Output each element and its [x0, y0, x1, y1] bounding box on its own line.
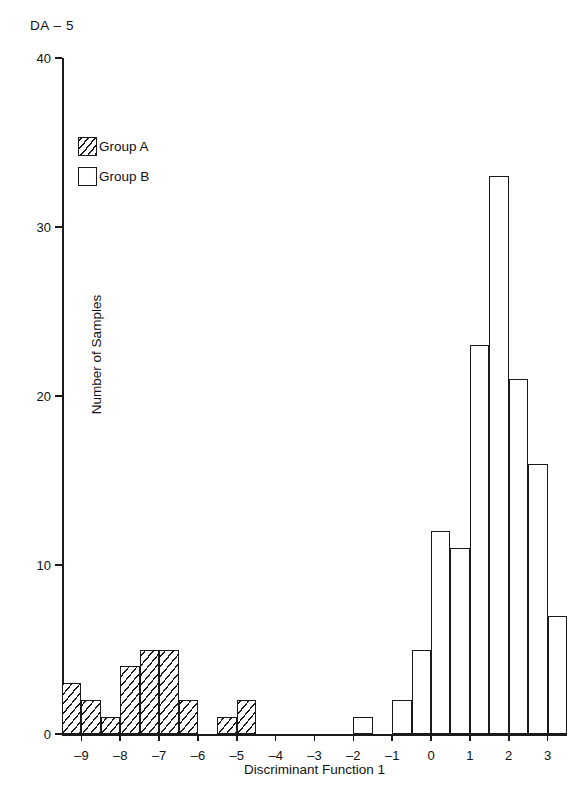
y-tick-label: 40 [37, 51, 51, 66]
x-tick-label: –2 [346, 748, 360, 763]
x-axis-title: Discriminant Function 1 [62, 762, 567, 777]
x-tick-label: –8 [113, 748, 127, 763]
histogram-bar [140, 650, 159, 735]
y-tick-mark [55, 564, 62, 566]
legend-item-group-a: Group A [78, 131, 149, 161]
x-tick-mark [430, 734, 432, 741]
histogram-bar [179, 700, 198, 734]
histogram-bar [120, 666, 139, 734]
histogram-bar [548, 616, 567, 734]
x-tick-label: –7 [152, 748, 166, 763]
histogram-bar [528, 464, 547, 734]
histogram-bar [412, 650, 431, 735]
legend-label-group-a: Group A [99, 139, 149, 154]
x-tick-mark [197, 734, 199, 741]
x-tick-mark [158, 734, 160, 741]
x-tick-label: 3 [544, 748, 551, 763]
legend-label-group-b: Group B [99, 169, 149, 184]
legend-swatch-open-square-icon [78, 167, 97, 186]
y-tick-label: 0 [44, 727, 51, 742]
x-tick-mark [469, 734, 471, 741]
x-tick-label: –5 [230, 748, 244, 763]
histogram-bar [101, 717, 120, 734]
histogram-bar [217, 717, 236, 734]
histogram-bar [509, 379, 528, 734]
x-tick-mark [275, 734, 277, 741]
histogram-bar [450, 548, 469, 734]
legend-swatch-hatched-square-icon [78, 137, 97, 156]
x-tick-label: 0 [427, 748, 434, 763]
legend-item-group-b: Group B [78, 161, 149, 191]
y-tick-mark [55, 226, 62, 228]
x-tick-label: –6 [191, 748, 205, 763]
histogram-bar [62, 683, 81, 734]
y-tick-mark [55, 395, 62, 397]
histogram-bar [81, 700, 100, 734]
y-tick-label: 30 [37, 220, 51, 235]
x-tick-label: 1 [466, 748, 473, 763]
histogram-bar [159, 650, 178, 735]
x-tick-label: –9 [74, 748, 88, 763]
figure-id-label: DA – 5 [30, 18, 74, 33]
x-tick-label: –3 [307, 748, 321, 763]
y-axis-spine [62, 58, 64, 734]
figure-container: DA – 5 010203040 –9–8–7–6–5–4–3–2–10123 … [0, 0, 573, 787]
x-tick-mark [508, 734, 510, 741]
histogram-bar [489, 176, 508, 734]
histogram-bar [431, 531, 450, 734]
histogram-bar [392, 700, 411, 734]
x-tick-mark [81, 734, 83, 741]
y-tick-label: 10 [37, 558, 51, 573]
x-tick-label: 2 [505, 748, 512, 763]
legend: Group A Group B [78, 131, 149, 191]
x-tick-mark [391, 734, 393, 741]
x-tick-mark [236, 734, 238, 741]
x-tick-mark [119, 734, 121, 741]
y-axis-title: Number of Samples [89, 245, 104, 465]
histogram-bar [353, 717, 372, 734]
y-tick-label: 20 [37, 389, 51, 404]
x-tick-label: –4 [268, 748, 282, 763]
x-tick-mark [314, 734, 316, 741]
y-tick-mark [55, 733, 62, 735]
x-tick-mark [353, 734, 355, 741]
x-tick-mark [547, 734, 549, 741]
y-tick-mark [55, 57, 62, 59]
histogram-bar [237, 700, 256, 734]
histogram-bar [470, 345, 489, 734]
x-tick-label: –1 [385, 748, 399, 763]
